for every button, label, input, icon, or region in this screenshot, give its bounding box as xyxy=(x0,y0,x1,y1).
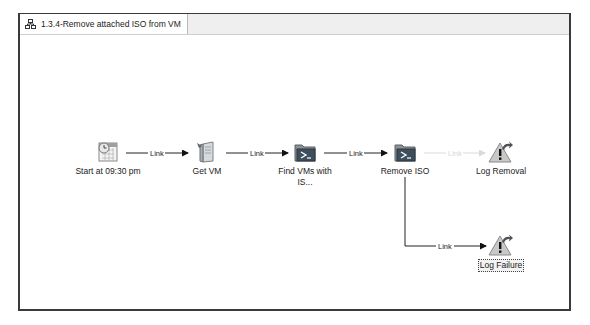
schedule-calendar-icon xyxy=(95,140,121,164)
warning-log-icon xyxy=(488,233,514,257)
activity-find-vms[interactable]: Find VMs with IS... xyxy=(270,140,340,188)
server-icon xyxy=(194,140,220,164)
activity-log-failure[interactable]: Log Failure xyxy=(466,233,536,272)
activity-start[interactable]: Start at 09:30 pm xyxy=(73,140,143,177)
powershell-folder-icon xyxy=(392,140,418,164)
activity-remove-iso[interactable]: Remove ISO xyxy=(370,140,440,177)
activity-get-vm[interactable]: Get VM xyxy=(172,140,242,177)
activity-label: Find VMs with IS... xyxy=(270,166,340,188)
activity-label: Remove ISO xyxy=(380,166,431,177)
link-label: Link xyxy=(438,242,452,251)
link-label: Link xyxy=(250,149,264,158)
activity-label: Log Failure xyxy=(478,259,525,272)
warning-log-icon xyxy=(488,140,514,164)
activity-label: Start at 09:30 pm xyxy=(74,166,141,177)
link-label: Link xyxy=(150,149,164,158)
link-label: Link xyxy=(349,149,363,158)
link-label: Link xyxy=(448,149,462,158)
activity-log-removal[interactable]: Log Removal xyxy=(466,140,536,177)
activity-label: Get VM xyxy=(192,166,223,177)
powershell-folder-icon xyxy=(292,140,318,164)
activity-label: Log Removal xyxy=(475,166,527,177)
